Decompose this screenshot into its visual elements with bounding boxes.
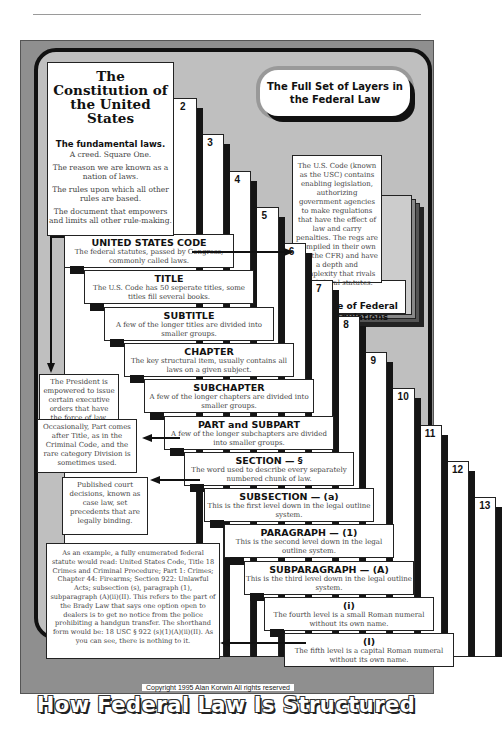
top-rule xyxy=(33,14,421,15)
level-description: A few of the longer chapters are divided… xyxy=(145,393,313,411)
level-title: SUBPARAGRAPH — (A) xyxy=(245,564,413,575)
level-number: 3 xyxy=(207,137,213,148)
arrow-right-icon xyxy=(284,248,294,256)
level-number: 8 xyxy=(343,319,349,330)
level-description: The U.S. Code has 50 seperate titles, so… xyxy=(85,284,253,302)
constitution-line: The rules upon which all other rules are… xyxy=(48,185,173,203)
level-card: SUBSECTION — (a)This is the first level … xyxy=(204,488,374,522)
constitution-line: The reason we are known as a nation of l… xyxy=(48,163,173,181)
level-card: SECTION — §The word used to describe eve… xyxy=(184,452,354,486)
arrow-to-example xyxy=(228,642,306,644)
arrow-down-icon xyxy=(47,363,55,373)
level-title: UNITED STATES CODE xyxy=(65,237,233,248)
level-tab-marker xyxy=(130,375,144,383)
copyright: Copyright 1995 Alan Korwin All rights re… xyxy=(142,684,294,691)
page-shadow xyxy=(468,471,475,657)
level-number: 13 xyxy=(479,500,490,511)
constitution-line: The document that empowers and limits al… xyxy=(48,207,173,225)
level-title: TITLE xyxy=(85,273,253,284)
level-title: (I) xyxy=(285,636,453,647)
level-title: CHAPTER xyxy=(125,346,293,357)
level-tab-marker xyxy=(230,557,244,565)
poster-title: How Federal Law Is Structured xyxy=(20,693,432,717)
level-tab-marker xyxy=(150,412,164,420)
level-card: SUBTITLEA few of the longer titles are d… xyxy=(104,307,274,341)
level-tab-marker xyxy=(90,303,104,311)
level-description: A few of the longer titles are divided i… xyxy=(105,321,273,339)
part-note: Occasionally, Part comes after Title, as… xyxy=(37,419,137,473)
level-number: 2 xyxy=(180,101,186,112)
level-title: PART and SUBPART xyxy=(165,419,333,430)
page-shadow xyxy=(441,435,448,657)
level-title: SUBSECTION — (a) xyxy=(205,491,373,502)
level-title: (i) xyxy=(265,600,433,611)
level-number: 9 xyxy=(370,355,376,366)
arrow-left-icon xyxy=(220,639,230,647)
level-card: CHAPTERThe key structural item, usually … xyxy=(124,343,294,377)
arrow-to-cfr xyxy=(192,251,286,253)
level-tab-marker xyxy=(190,484,204,492)
level-description: This is the first level down in the lega… xyxy=(205,502,373,520)
level-title: SUBTITLE xyxy=(105,310,273,321)
level-card: PART and SUBPARTA few of the longer subc… xyxy=(164,416,334,450)
level-card: SUBPARAGRAPH — (A)This is the third leve… xyxy=(244,561,414,595)
level-number: 4 xyxy=(234,174,240,185)
level-description: The key structural item, usually contain… xyxy=(125,357,293,375)
constitution-box: The Constitution of the United States Th… xyxy=(47,62,174,236)
level-tab-marker xyxy=(250,593,264,601)
level-description: A few of the longer subchapters are divi… xyxy=(165,430,333,448)
level-tab-marker xyxy=(170,448,184,456)
level-title: SUBCHAPTER xyxy=(145,382,313,393)
constitution-line: A creed. Square One. xyxy=(48,150,173,159)
level-card: PARAGRAPH — (1)This is the second level … xyxy=(224,524,394,558)
level-card: (i)The fourth level is a small Roman num… xyxy=(264,597,434,631)
level-card: TITLEThe U.S. Code has 50 seperate title… xyxy=(84,270,254,304)
level-number: 10 xyxy=(398,391,409,402)
example-note: As an example, a fully enumerated federa… xyxy=(46,543,220,659)
arrow-to-part-note xyxy=(150,437,180,439)
arrow-left-icon xyxy=(150,476,160,484)
level-number: 11 xyxy=(425,428,436,439)
level-tab-marker xyxy=(210,520,224,528)
level-card: SUBCHAPTERA few of the longer chapters a… xyxy=(144,379,314,413)
level-card: (I)The fifth level is a capital Roman nu… xyxy=(284,633,454,667)
header-title: The Full Set of Layers in the Federal La… xyxy=(260,70,410,116)
page-shadow xyxy=(495,507,502,657)
caselaw-note: Published court decisions, known as case… xyxy=(62,477,148,535)
level-title: SECTION — § xyxy=(185,455,353,466)
level-description: This is the third level down in the lega… xyxy=(245,575,413,593)
level-description: This is the second level down in the leg… xyxy=(225,538,393,556)
arrow-to-president xyxy=(50,236,52,366)
level-title: PARAGRAPH — (1) xyxy=(225,527,393,538)
constitution-title-1: The Constitution of xyxy=(48,69,173,97)
arrow-to-caselaw xyxy=(158,479,200,481)
level-description: The fifth level is a capital Roman numer… xyxy=(285,647,453,665)
level-tab-marker xyxy=(70,266,84,274)
level-number: 5 xyxy=(262,210,268,221)
level-description: The word used to describe every separate… xyxy=(185,466,353,484)
level-number: 7 xyxy=(316,283,322,294)
constitution-title-2: the United States xyxy=(48,97,173,125)
arrow-left-icon xyxy=(142,434,152,442)
constitution-bold: The fundamental laws. xyxy=(48,139,173,149)
level-description: The fourth level is a small Roman numera… xyxy=(265,611,433,629)
level-number: 12 xyxy=(452,464,463,475)
level-tab-marker xyxy=(110,339,124,347)
level-tab-marker xyxy=(270,629,284,637)
